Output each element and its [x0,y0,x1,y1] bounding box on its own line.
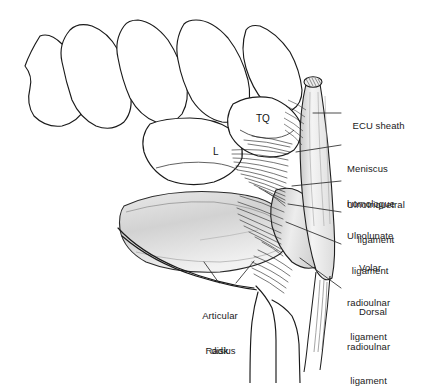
callout-line: Meniscus [347,163,395,175]
callout-line: radioulnar [347,341,390,353]
callout-line: ligament [347,375,390,387]
bone-label-lunate: L [213,146,219,157]
bone-label-triquetrum: TQ [256,113,270,124]
callout-line: Volar [347,262,390,274]
callout-line: ECU sheath [352,120,404,131]
callout-line: Dorsal [347,306,390,318]
callout-label-radius: Radius [200,333,236,356]
callout-line: Radius [205,345,235,356]
callout-label-ecu-sheath: ECU sheath [347,108,405,131]
callout-line: Articular [194,310,246,322]
callout-label-dorsal-radioulnar-ligament: Dorsal radioulnar ligament [347,283,390,390]
